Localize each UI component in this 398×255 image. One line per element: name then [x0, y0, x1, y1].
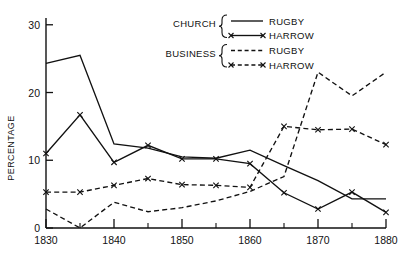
legend-entry-business-rugby[interactable]: RUGBY — [231, 45, 305, 56]
x-tick-label: 1880 — [374, 234, 398, 246]
legend-group-label: CHURCH — [173, 18, 216, 29]
series-line — [46, 115, 386, 213]
chart-legend: CHURCHRUGBYHARROWBUSINESSRUGBYHARROW — [166, 15, 315, 71]
legend-group-church: CHURCHRUGBYHARROW — [173, 15, 314, 41]
x-tick-label: 1870 — [306, 234, 330, 246]
plot-axes — [46, 18, 386, 228]
legend-brace — [219, 15, 227, 38]
x-tick-label: 1840 — [102, 234, 126, 246]
series-business-rugby — [46, 72, 386, 228]
y-axis-label: PERCENTAGE — [6, 115, 16, 180]
line-chart: 0102030 183018401850186018701880 PERCENT… — [0, 0, 398, 255]
y-axis-ticks: 0102030 — [28, 19, 53, 234]
y-tick-label: 30 — [28, 19, 40, 31]
legend-entry-church-rugby[interactable]: RUGBY — [231, 16, 305, 27]
x-tick-label: 1850 — [170, 234, 194, 246]
legend-brace — [219, 45, 227, 68]
chart-figure: 0102030 183018401850186018701880 PERCENT… — [0, 0, 398, 255]
x-tick-label: 1860 — [238, 234, 262, 246]
legend-entry-label: HARROW — [269, 60, 314, 71]
series-church-harrow — [43, 112, 388, 215]
series-church-rugby — [46, 55, 386, 199]
series-line — [46, 72, 386, 228]
legend-group-business: BUSINESSRUGBYHARROW — [166, 45, 315, 71]
legend-entry-label: RUGBY — [269, 16, 305, 27]
series-line — [46, 55, 386, 199]
x-axis-ticks: 183018401850186018701880 — [34, 219, 398, 246]
y-tick-label: 10 — [28, 154, 40, 166]
legend-entry-business-harrow[interactable]: HARROW — [229, 60, 315, 71]
x-tick-label: 1830 — [34, 234, 58, 246]
legend-entry-label: RUGBY — [269, 45, 305, 56]
legend-group-label: BUSINESS — [166, 48, 216, 59]
legend-entry-church-harrow[interactable]: HARROW — [229, 30, 315, 41]
y-tick-label: 20 — [28, 87, 40, 99]
legend-entry-label: HARROW — [269, 30, 314, 41]
y-tick-label: 0 — [34, 222, 40, 234]
data-series-layer — [43, 55, 388, 228]
